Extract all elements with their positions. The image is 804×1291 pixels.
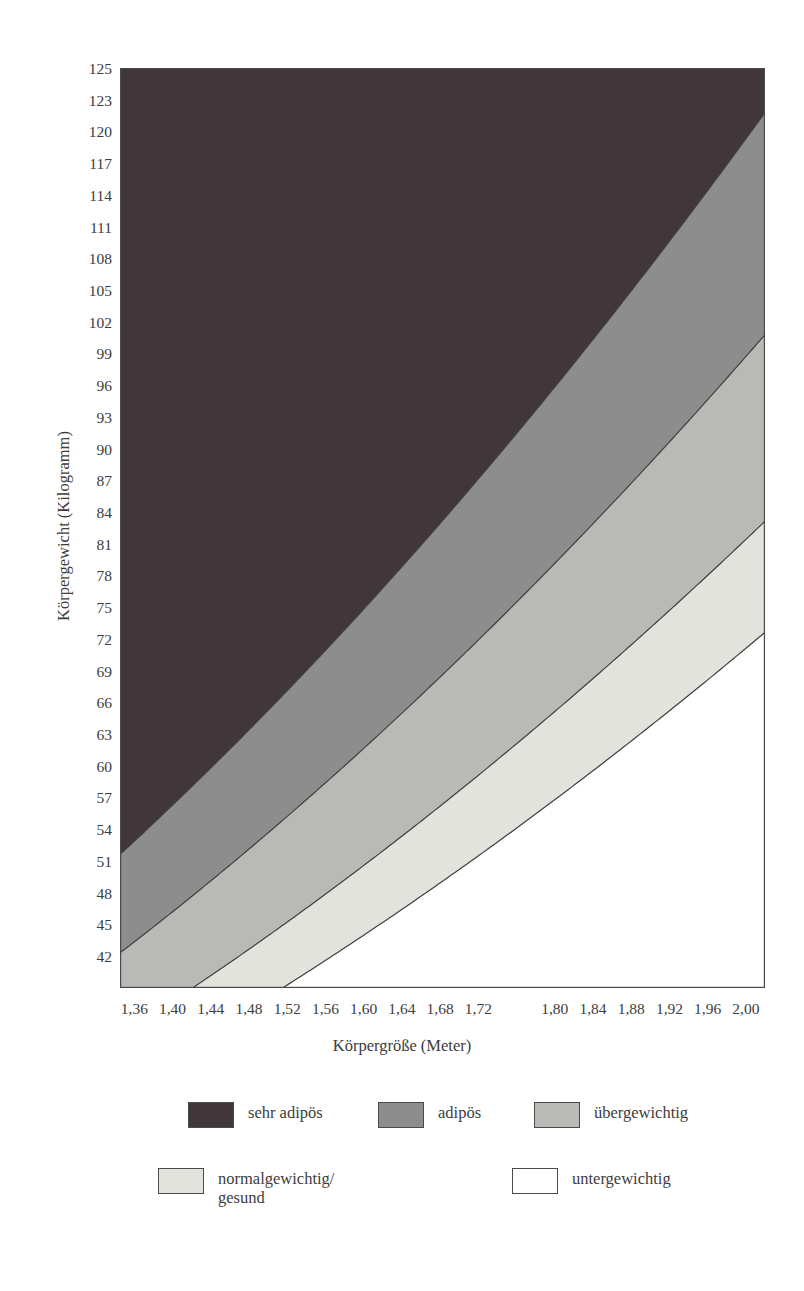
y-axis-tick-label: 84	[97, 505, 113, 521]
y-axis-tick-label: 87	[97, 473, 113, 489]
x-axis-tick-label: 1,96	[694, 1000, 721, 1018]
x-axis-tick-label: 1,48	[235, 1000, 262, 1018]
y-axis-tick-label: 102	[89, 315, 112, 331]
bmi-chart-figure: Körpergewicht (Kilogramm) 12512312011711…	[0, 0, 804, 1291]
y-axis-tick-label: 111	[90, 220, 112, 236]
y-axis-tick-label: 60	[97, 759, 113, 775]
legend-swatch-uebergewichtig	[534, 1102, 580, 1128]
y-axis-tick-label: 90	[97, 442, 113, 458]
y-axis-tick-label: 117	[89, 156, 112, 172]
y-axis-tick-label: 48	[97, 886, 113, 902]
x-axis-tick-labels: 1,361,401,441,481,521,561,601,641,681,72…	[120, 1000, 765, 1022]
x-axis-tick-label: 1,88	[618, 1000, 645, 1018]
y-axis-title-holder: Körpergewicht (Kilogramm)	[24, 68, 50, 988]
y-axis-tick-label: 51	[97, 854, 113, 870]
x-axis-tick-label: 1,44	[197, 1000, 224, 1018]
y-axis-tick-label: 105	[89, 283, 112, 299]
legend-label-uebergewichtig: übergewichtig	[594, 1103, 688, 1122]
legend-item-normalgewichtig: normalgewichtig/ gesund	[158, 1168, 334, 1207]
x-axis-tick-label: 1,84	[579, 1000, 606, 1018]
y-axis-tick-label: 99	[97, 346, 113, 362]
y-axis-tick-label: 72	[97, 632, 113, 648]
y-axis-tick-label: 81	[97, 537, 113, 553]
x-axis-tick-label: 1,72	[465, 1000, 492, 1018]
x-axis-tick-label: 1,60	[350, 1000, 377, 1018]
y-axis-tick-label: 66	[97, 695, 113, 711]
y-axis-tick-label: 108	[89, 251, 112, 267]
x-axis-title: Körpergröße (Meter)	[0, 1036, 804, 1056]
legend-row-top: sehr adipös adipös übergewichtig	[0, 1096, 804, 1158]
bmi-band-plot	[120, 68, 765, 988]
x-axis-tick-label: 1,80	[541, 1000, 568, 1018]
legend-label-adipoes: adipös	[438, 1103, 481, 1122]
legend-label-normalgewichtig: normalgewichtig/ gesund	[218, 1169, 334, 1207]
y-axis-tick-label: 125	[89, 61, 112, 77]
y-axis-tick-label: 69	[97, 664, 113, 680]
x-axis-tick-label: 1,92	[656, 1000, 683, 1018]
legend-item-adipoes: adipös	[378, 1102, 481, 1128]
legend-item-untergewichtig: untergewichtig	[512, 1168, 671, 1194]
y-axis-tick-label: 93	[97, 410, 113, 426]
x-axis-tick-label: 1,68	[427, 1000, 454, 1018]
y-axis-tick-label: 123	[89, 93, 112, 109]
legend-label-sehr-adipoes: sehr adipös	[248, 1103, 323, 1122]
legend-label-untergewichtig: untergewichtig	[572, 1169, 671, 1188]
y-axis-tick-label: 96	[97, 378, 113, 394]
plot-area	[120, 68, 765, 988]
y-axis-tick-label: 54	[97, 822, 113, 838]
x-axis-tick-label: 1,56	[312, 1000, 339, 1018]
y-axis-tick-label: 120	[89, 124, 112, 140]
y-axis-tick-label: 57	[97, 790, 113, 806]
legend-swatch-normalgewichtig	[158, 1168, 204, 1194]
x-axis-tick-label: 1,64	[388, 1000, 415, 1018]
y-axis-tick-label: 75	[97, 600, 113, 616]
y-axis-tick-label: 78	[97, 568, 113, 584]
legend-item-uebergewichtig: übergewichtig	[534, 1102, 688, 1128]
y-axis-tick-label: 63	[97, 727, 113, 743]
y-axis-tick-label: 45	[97, 917, 113, 933]
legend-row-bottom: normalgewichtig/ gesund untergewichtig	[0, 1158, 804, 1236]
x-axis-tick-label: 1,52	[274, 1000, 301, 1018]
x-axis-tick-label: 2,00	[732, 1000, 759, 1018]
legend-swatch-sehr-adipoes	[188, 1102, 234, 1128]
x-axis-tick-label: 1,40	[159, 1000, 186, 1018]
legend-swatch-untergewichtig	[512, 1168, 558, 1194]
legend-swatch-adipoes	[378, 1102, 424, 1128]
y-axis-tick-label: 114	[89, 188, 112, 204]
y-axis-tick-labels: 1251231201171141111081051029996939087848…	[60, 68, 112, 988]
x-axis-tick-label: 1,36	[121, 1000, 148, 1018]
y-axis-tick-label: 42	[97, 949, 113, 965]
legend-item-sehr-adipoes: sehr adipös	[188, 1102, 323, 1128]
legend: sehr adipös adipös übergewichtig normalg…	[0, 1096, 804, 1236]
